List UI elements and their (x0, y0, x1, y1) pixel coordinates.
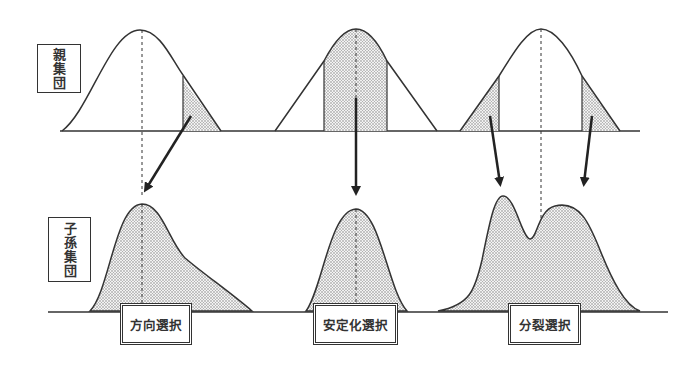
offspring-curve-directional (90, 204, 252, 311)
label-stabilizing-selection: 安定化選択 (313, 303, 398, 345)
label-disruptive-selection: 分裂選択 (508, 303, 581, 345)
offspring-curve-disruptive (438, 196, 640, 311)
label-directional-selection: 方向選択 (120, 303, 192, 345)
parent-curve-directional (62, 30, 221, 195)
offspring-population-label: 子孫集団 (48, 217, 91, 282)
parent-population-label: 親集団 (37, 44, 81, 93)
offspring-curve-stabilizing (306, 209, 407, 311)
arrow-directional (146, 116, 191, 189)
